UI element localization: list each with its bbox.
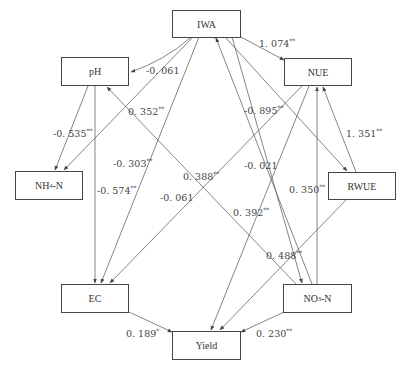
coef-iwa-ec: -0. 303** — [113, 156, 152, 169]
coef-ph-nh4n: -0. 535** — [53, 126, 92, 139]
coef-iwa-nue: 1. 074** — [259, 36, 295, 49]
node-no3n-suffix: -N — [321, 293, 332, 304]
node-nue-label: NUE — [308, 67, 329, 78]
node-yield-label: Yield — [196, 340, 218, 351]
coef-no3n-ph: 0. 352** — [128, 104, 164, 117]
coef-iwa-nh4n: 0. 388** — [183, 169, 219, 182]
node-ec: EC — [61, 284, 129, 313]
coef-rwue-nue: 1. 351** — [346, 126, 382, 139]
coef-no3n-nue: 0. 350** — [289, 182, 325, 195]
node-ph-label: pH — [89, 66, 101, 77]
coef-rwue-yield: 0. 488** — [266, 248, 302, 261]
node-nue: NUE — [284, 58, 352, 86]
node-iwa: IWA — [172, 10, 241, 38]
coef-nue-ec: -0. 061 — [160, 193, 193, 203]
coef-ec-yield: 0. 189* — [126, 326, 159, 339]
node-no3n-label: NO — [303, 293, 317, 304]
node-nh4n-label: NH — [35, 180, 49, 191]
coef-ph-ec: -0. 574** — [97, 183, 136, 196]
node-iwa-label: IWA — [197, 19, 216, 30]
node-nh4n-suffix: -N — [52, 180, 63, 191]
node-yield: Yield — [172, 331, 241, 360]
coef-yield-iwa: -0. 895** — [244, 103, 283, 116]
coef-iwa-ph: -0. 061 — [146, 66, 179, 76]
node-ph: pH — [61, 57, 129, 86]
coef-no3n-yield: 0. 230** — [256, 326, 292, 339]
node-rwue-label: RWUE — [348, 181, 377, 192]
path-diagram: IWA pH NUE NH4-N RWUE EC NO3-N Yield 1. … — [0, 0, 409, 372]
coef-nue-yield: 0. 392** — [233, 205, 269, 218]
node-no3n: NO3-N — [283, 284, 352, 313]
node-ec-label: EC — [89, 293, 102, 304]
coef-no3n-iwa: -0. 021 — [244, 161, 277, 171]
node-rwue: RWUE — [328, 172, 396, 200]
node-nh4n: NH4-N — [15, 171, 83, 200]
